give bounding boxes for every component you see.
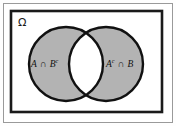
sample-space-label: Ω — [18, 16, 26, 29]
right-label-superscript: c — [112, 57, 115, 64]
region-label-a-minus-b: A∩Bc — [30, 57, 59, 69]
left-label-base-a: A — [30, 59, 37, 69]
region-label-b-minus-a: Ac∩B — [105, 57, 133, 69]
left-label-operator: ∩ — [40, 59, 47, 69]
left-label-superscript: c — [56, 57, 59, 64]
right-label-operator: ∩ — [118, 59, 125, 69]
svg-text:A∩Bc: A∩Bc — [30, 57, 59, 69]
right-label-base-b: B — [127, 59, 133, 69]
venn-diagram-canvas: Ω A∩Bc Ac∩B — [0, 0, 176, 126]
venn-diagram-figure: Ω A∩Bc Ac∩B — [0, 0, 176, 126]
svg-text:Ac∩B: Ac∩B — [105, 57, 133, 69]
